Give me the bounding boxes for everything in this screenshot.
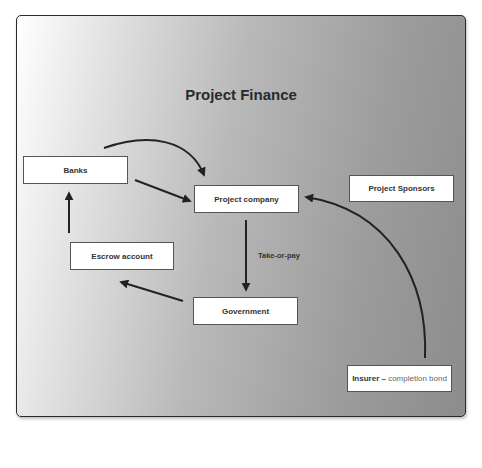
node-escrow-account: Escrow account [70, 242, 174, 270]
node-banks-label: Banks [63, 166, 87, 175]
edge-label-take-or-pay: Take-or-pay [258, 251, 300, 260]
node-escrow-account-label: Escrow account [91, 252, 152, 261]
arrows-layer [0, 0, 482, 468]
node-project-sponsors: Project Sponsors [349, 175, 454, 202]
node-government: Government [193, 297, 298, 325]
arrow-insurer-to-project-company [306, 197, 425, 358]
node-insurer-separator: – [379, 374, 388, 383]
node-banks: Banks [23, 156, 128, 184]
node-insurer: Insurer – completion bond [347, 365, 452, 392]
node-insurer-label: Insurer [352, 374, 379, 383]
node-project-sponsors-label: Project Sponsors [368, 184, 434, 193]
node-government-label: Government [222, 307, 269, 316]
arrow-government-to-escrow [121, 282, 183, 301]
arrow-banks-to-project-company [135, 180, 190, 201]
node-project-company-label: Project company [214, 195, 278, 204]
node-project-company: Project company [194, 185, 299, 213]
node-insurer-detail: completion bond [388, 374, 447, 383]
